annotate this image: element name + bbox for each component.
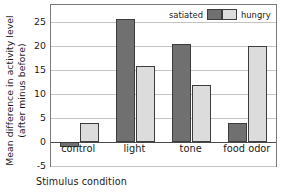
bars-group [51, 5, 276, 166]
bar-light-satiated [116, 19, 135, 142]
y-tick-label: -5 [22, 160, 49, 171]
y-axis-title-line-1: Mean difference in activity level [4, 15, 16, 165]
legend-swatches [207, 9, 237, 20]
y-tick-label: 20 [22, 39, 49, 50]
legend-swatch-hungry [222, 9, 237, 20]
bar-food-odor-hungry [248, 46, 267, 142]
x-tick-label-tone: tone [180, 143, 202, 154]
chart-legend: satiated hungry [169, 9, 271, 20]
y-axis-tick-labels: 2520151050-5 [22, 0, 49, 195]
bar-light-hungry [136, 66, 155, 142]
bar-chart-figure: Mean difference in activity level (after… [0, 0, 281, 195]
bar-control-hungry [80, 123, 99, 142]
y-tick-label: 25 [22, 15, 49, 26]
bar-tone-hungry [192, 85, 211, 142]
bar-tone-satiated [172, 44, 191, 142]
legend-label-satiated: satiated [169, 10, 203, 20]
y-tick-label: 5 [22, 111, 49, 122]
x-tick-label-food-odor: food odor [223, 143, 270, 154]
gridline [51, 166, 276, 167]
y-tick-label: 15 [22, 63, 49, 74]
y-tick-label: 10 [22, 87, 49, 98]
y-tick-label: 0 [22, 135, 49, 146]
x-axis-title: Stimulus condition [36, 176, 127, 187]
legend-swatch-satiated [207, 9, 222, 20]
x-tick-label-control: control [61, 143, 95, 154]
x-tick-label-light: light [124, 143, 146, 154]
bar-food-odor-satiated [228, 123, 247, 142]
legend-label-hungry: hungry [241, 10, 271, 20]
